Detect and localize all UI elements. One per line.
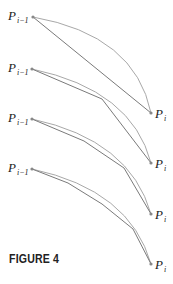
polygonal-approximation bbox=[33, 17, 151, 113]
figure-canvas bbox=[0, 0, 173, 284]
label-p-i-minus-1-panel-3: Pi−1 bbox=[8, 111, 29, 127]
polygonal-approximation bbox=[32, 119, 151, 214]
point-p-i bbox=[149, 212, 152, 215]
point-p-i bbox=[149, 111, 152, 114]
label-p-i-panel-2: Pi bbox=[155, 157, 166, 173]
curve-arc bbox=[32, 119, 151, 214]
curve-arc bbox=[32, 69, 151, 163]
panel-2 bbox=[30, 67, 152, 164]
label-p-i-panel-1: Pi bbox=[155, 107, 166, 123]
label-p-i-minus-1-panel-2: Pi−1 bbox=[8, 61, 29, 77]
polygonal-approximation bbox=[32, 69, 151, 163]
panel-3 bbox=[30, 117, 152, 215]
point-p-i bbox=[149, 262, 152, 265]
point-p-i-minus-1 bbox=[31, 15, 34, 18]
point-p-i-minus-1 bbox=[30, 167, 33, 170]
label-p-i-panel-3: Pi bbox=[155, 208, 166, 224]
point-p-i-minus-1 bbox=[30, 67, 33, 70]
panel-4 bbox=[30, 167, 152, 265]
figure-caption: FIGURE 4 bbox=[9, 252, 59, 266]
point-p-i-minus-1 bbox=[30, 117, 33, 120]
label-p-i-minus-1-panel-4: Pi−1 bbox=[8, 161, 29, 177]
point-p-i bbox=[149, 161, 152, 164]
panel-1 bbox=[31, 15, 152, 114]
label-p-i-minus-1-panel-1: Pi−1 bbox=[8, 9, 29, 25]
label-p-i-panel-4: Pi bbox=[155, 258, 166, 274]
